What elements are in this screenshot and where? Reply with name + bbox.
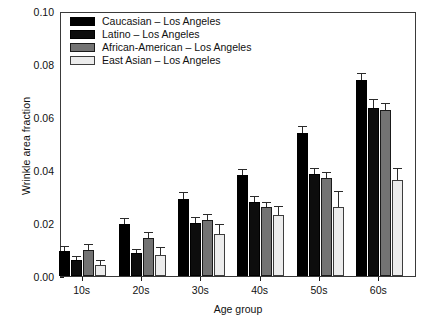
legend-swatch [70, 17, 95, 26]
x-axis-tick-mark [319, 277, 320, 281]
error-bar [302, 127, 303, 133]
legend: Caucasian – Los AngelesLatino – Los Ange… [70, 16, 251, 66]
error-bar [136, 250, 137, 253]
bar [83, 250, 94, 276]
bar [178, 199, 189, 276]
error-bar-cap [156, 247, 165, 248]
legend-item: East Asian – Los Angeles [70, 55, 251, 66]
bar [261, 207, 272, 276]
y-axis-tick-label: 0.02 [20, 218, 54, 230]
error-bar-cap [203, 214, 212, 215]
bar [131, 253, 142, 276]
error-bar-cap [298, 126, 307, 127]
x-axis-tick-label: 30s [180, 284, 220, 296]
bar [321, 178, 332, 276]
error-bar [219, 225, 220, 234]
error-bar-cap [60, 246, 69, 247]
error-bar [266, 203, 267, 208]
legend-label: Latino – Los Angeles [102, 29, 200, 40]
error-bar-cap [334, 191, 343, 192]
bar [249, 202, 260, 276]
x-axis-tick-labels: 10s20s30s40s50s60s [60, 284, 416, 300]
error-bar-cap [215, 224, 224, 225]
y-axis-tick-label: 0.04 [20, 165, 54, 177]
x-axis-tick-marks [60, 277, 416, 283]
error-bar [195, 218, 196, 223]
error-bar-cap [84, 244, 93, 245]
error-bar-cap [238, 169, 247, 170]
x-axis-tick-label: 50s [299, 284, 339, 296]
wrinkle-area-fraction-bar-chart: Wrinkle area fraction 0.000.020.040.060.… [0, 0, 438, 321]
x-axis-tick-mark [200, 277, 201, 281]
bar [237, 175, 248, 276]
error-bar-cap [262, 202, 271, 203]
y-axis-tick-label: 0.00 [20, 271, 54, 283]
error-bar [338, 192, 339, 207]
x-axis-tick-label: 20s [121, 284, 161, 296]
x-axis-tick-label: 10s [62, 284, 102, 296]
error-bar [64, 247, 65, 252]
error-bar [88, 245, 89, 250]
bar [368, 108, 379, 276]
x-axis-tick-label: 60s [358, 284, 398, 296]
bar [214, 234, 225, 276]
bar-group [297, 13, 344, 276]
error-bar-cap [393, 168, 402, 169]
error-bar [160, 248, 161, 254]
error-bar-cap [179, 192, 188, 193]
error-bar [207, 215, 208, 220]
bar [71, 260, 82, 276]
bar [297, 133, 308, 276]
error-bar-cap [357, 73, 366, 74]
x-axis-title: Age group [60, 303, 416, 315]
legend-label: East Asian – Los Angeles [102, 55, 221, 66]
bar [190, 223, 201, 276]
error-bar [361, 74, 362, 80]
x-axis-tick-mark [82, 277, 83, 281]
error-bar [254, 197, 255, 202]
bar [202, 220, 213, 276]
error-bar-cap [381, 103, 390, 104]
bar [143, 238, 154, 276]
x-axis-tick-mark [141, 277, 142, 281]
bar [380, 110, 391, 276]
error-bar [183, 193, 184, 199]
error-bar-cap [96, 260, 105, 261]
legend-item: Caucasian – Los Angeles [70, 16, 251, 27]
legend-item: Latino – Los Angeles [70, 29, 251, 40]
error-bar [242, 170, 243, 175]
error-bar [397, 169, 398, 180]
x-axis-tick-mark [378, 277, 379, 281]
y-axis-tick-label: 0.10 [20, 6, 54, 18]
error-bar-cap [274, 206, 283, 207]
bar [119, 224, 130, 276]
error-bar [148, 233, 149, 238]
error-bar [100, 261, 101, 266]
legend-swatch [70, 43, 95, 52]
error-bar-cap [191, 217, 200, 218]
error-bar [124, 219, 125, 225]
legend-swatch [70, 56, 95, 65]
error-bar-cap [144, 232, 153, 233]
error-bar-cap [310, 168, 319, 169]
y-axis-tick-label: 0.08 [20, 59, 54, 71]
bar [356, 80, 367, 276]
error-bar [326, 173, 327, 178]
legend-swatch [70, 30, 95, 39]
bar [392, 180, 403, 276]
bar-group [356, 13, 403, 276]
x-axis-tick-label: 40s [240, 284, 280, 296]
error-bar-cap [72, 256, 81, 257]
bar [273, 215, 284, 276]
error-bar [278, 207, 279, 215]
error-bar [385, 104, 386, 110]
legend-item: African-American – Los Angeles [70, 42, 251, 53]
bar [333, 207, 344, 276]
error-bar-cap [120, 218, 129, 219]
bar [309, 174, 320, 276]
error-bar-cap [132, 249, 141, 250]
legend-label: African-American – Los Angeles [102, 42, 251, 53]
bar [155, 255, 166, 276]
y-axis-tick-labels: 0.000.020.040.060.080.10 [20, 0, 54, 321]
x-axis-tick-mark [260, 277, 261, 281]
